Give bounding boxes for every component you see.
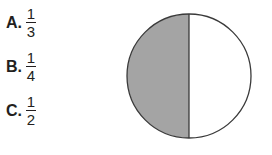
shaded-half [127, 14, 189, 138]
unshaded-half [189, 14, 251, 138]
fraction-circle-figure [0, 0, 272, 155]
